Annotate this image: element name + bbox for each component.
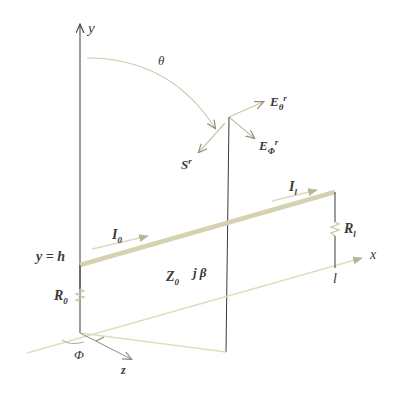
y-axis-label: y <box>88 21 95 36</box>
rl-resistor-icon <box>331 222 339 236</box>
observation-vertical-line <box>226 117 229 352</box>
z0-sub: 0 <box>175 277 180 287</box>
origin-tick <box>96 337 104 341</box>
theta-label: θ <box>158 54 164 67</box>
e-theta-sup: r <box>283 93 287 103</box>
e-phi-sup: r <box>275 137 279 147</box>
diagram-graphics <box>0 0 400 394</box>
e-theta-label: Eθr <box>270 94 287 112</box>
j-beta-label: j β <box>193 266 207 279</box>
e-phi-sub: Φ <box>268 146 275 156</box>
z0-label: Z0 <box>166 270 179 287</box>
il-label: Il <box>289 180 297 197</box>
e-phi-vector <box>229 117 254 138</box>
e-phi-main: E <box>259 138 268 153</box>
y-equals-h-label: y = h <box>36 250 65 264</box>
r0-main: R <box>54 288 63 303</box>
e-phi-label: EΦr <box>259 138 278 156</box>
r0-label: R0 <box>54 289 68 306</box>
theta-arc <box>87 58 215 128</box>
length-l-label: l <box>333 272 337 286</box>
poynting-sup: r <box>188 156 192 166</box>
r0-sub: 0 <box>63 296 68 306</box>
poynting-label: Sr <box>181 157 192 171</box>
z-axis-label: z <box>121 364 126 376</box>
i0-label: I0 <box>112 228 122 245</box>
poynting-vector <box>199 123 225 152</box>
e-theta-main: E <box>270 94 279 109</box>
rl-main: R <box>344 221 353 236</box>
rl-label: Rl <box>344 222 356 239</box>
phi-label: Φ <box>74 348 84 361</box>
z0-main: Z <box>166 269 175 284</box>
projection-line <box>80 333 226 352</box>
x-axis-label: x <box>370 248 376 262</box>
il-sub: l <box>294 187 297 197</box>
transmission-line-radiation-diagram: y θ Eθr EΦr Sr Il Rl x l I0 y = h Z0 j β… <box>0 0 400 394</box>
rl-sub: l <box>353 229 356 239</box>
i0-sub: 0 <box>117 235 122 245</box>
e-theta-sub: θ <box>279 102 284 112</box>
e-theta-vector <box>229 102 263 117</box>
